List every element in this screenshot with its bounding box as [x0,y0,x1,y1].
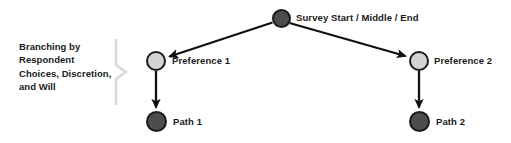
node-label-path-1: Path 1 [173,116,202,127]
node-path-2[interactable] [409,111,430,132]
node-label-preference-1: Preference 1 [172,55,230,66]
node-label-preference-2: Preference 2 [434,55,492,66]
diagram-canvas: Branching by Respondent Choices, Discret… [0,0,511,143]
node-label-path-2: Path 2 [436,116,465,127]
node-preference-2[interactable] [409,51,429,71]
edge-survey-to-preference-2 [290,23,406,56]
node-path-1[interactable] [146,111,167,132]
bracket-chevron-icon [113,39,129,105]
branching-caption: Branching by Respondent Choices, Discret… [19,40,117,94]
node-survey-start-middle-end[interactable] [272,9,291,28]
edge-survey-to-preference-1 [170,23,273,57]
node-label-survey-start-middle-end: Survey Start / Middle / End [296,12,419,23]
node-preference-1[interactable] [146,51,166,71]
